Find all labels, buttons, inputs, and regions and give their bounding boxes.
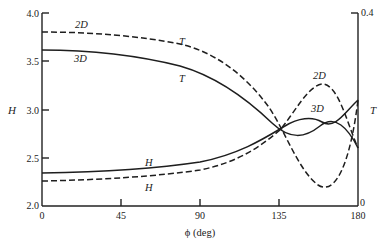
label-t-dashed: T — [179, 36, 186, 47]
label-h-dashed: H — [144, 182, 154, 193]
left-ticks — [42, 13, 49, 158]
label-2d-upper: 2D — [75, 19, 88, 30]
y-right-tick-0: 0 — [360, 197, 365, 208]
chart: 4.0 3.5 3.0 2.5 2.0 0.4 0 0 45 90 135 18… — [0, 0, 384, 245]
x-tick-90: 90 — [195, 210, 205, 221]
label-3d-right: 3D — [310, 103, 324, 114]
y-right-axis-label: T — [370, 104, 377, 116]
label-3d-upper: 3D — [73, 53, 87, 64]
label-t-solid: T — [179, 73, 186, 84]
y-tick-3-5: 3.5 — [27, 56, 40, 67]
x-tick-0: 0 — [40, 210, 45, 221]
y-left-axis-label: H — [7, 104, 17, 116]
x-tick-180: 180 — [351, 210, 366, 221]
y-tick-2-5: 2.5 — [27, 153, 40, 164]
curve-3d-t — [42, 50, 358, 148]
y-right-tick-0-4: 0.4 — [361, 7, 374, 18]
label-2d-right: 2D — [313, 70, 326, 81]
x-tick-135: 135 — [272, 210, 287, 221]
x-tick-45: 45 — [116, 210, 126, 221]
x-axis-label: ϕ (deg) — [185, 227, 216, 239]
label-h-solid: H — [144, 157, 154, 168]
y-tick-4-0: 4.0 — [27, 8, 40, 19]
y-tick-3-0: 3.0 — [27, 105, 40, 116]
y-tick-2-0: 2.0 — [27, 200, 40, 211]
x-ticks — [121, 199, 279, 206]
